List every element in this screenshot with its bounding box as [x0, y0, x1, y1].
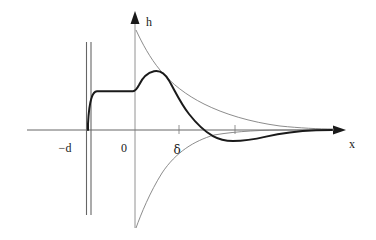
lower-envelope-curve — [136, 130, 334, 228]
y-axis-label: h — [146, 15, 152, 29]
y-axis-arrow-icon — [131, 11, 140, 24]
upper-envelope-curve — [136, 30, 334, 129]
tick-label-minus-d: −d — [59, 141, 72, 155]
figure-container: h x −d 0 δ — [0, 0, 376, 240]
x-axis-label: x — [349, 137, 355, 151]
h-profile-curve — [88, 71, 332, 141]
tick-label-delta: δ — [173, 143, 180, 157]
tick-label-zero: 0 — [121, 141, 127, 155]
diagram-canvas: h x −d 0 δ — [0, 0, 376, 240]
x-axis-arrow-icon — [333, 126, 346, 135]
